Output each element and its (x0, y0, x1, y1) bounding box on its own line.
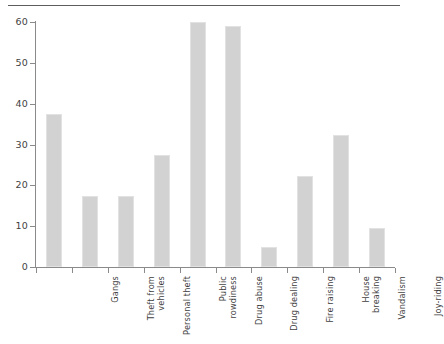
y-axis-tick (30, 185, 36, 186)
x-axis-tick (359, 268, 360, 273)
bar (154, 155, 170, 267)
x-axis-tick-label: House breaking (362, 276, 381, 338)
bar (297, 176, 313, 267)
x-axis-tick (108, 268, 109, 273)
y-axis-tick-label: 10 (0, 221, 28, 231)
bar (118, 196, 134, 267)
y-axis-tick (30, 104, 36, 105)
x-axis-tick-label: Gangs (111, 276, 121, 338)
y-axis-tick-label-text: 40 (4, 99, 28, 109)
x-axis-tick-label: Joy-riding (434, 276, 444, 338)
x-axis-tick (216, 268, 217, 273)
y-axis-tick-label-text: 20 (4, 180, 28, 190)
bar (190, 22, 206, 267)
y-axis-tick-label: 60 (0, 17, 28, 27)
x-axis-tick-label: Theft from vehicles (147, 276, 166, 338)
y-axis-tick-label: 40 (0, 99, 28, 109)
x-axis-tick (287, 268, 288, 273)
x-axis-tick (323, 268, 324, 273)
x-axis-tick (144, 268, 145, 273)
x-axis-tick-label: Fire raising (326, 276, 336, 338)
x-axis-tick (36, 268, 37, 273)
bar (225, 26, 241, 267)
y-axis-tick (30, 145, 36, 146)
y-axis-tick-label: 0 (0, 262, 28, 272)
x-axis-tick (395, 268, 396, 273)
y-axis-tick-label-text: 10 (4, 221, 28, 231)
y-axis-tick-label-text: 60 (4, 17, 28, 27)
x-axis-tick-label: Vandalism (398, 276, 408, 338)
y-axis-tick (30, 63, 36, 64)
x-axis-tick-label: Public rowdiness (219, 276, 238, 338)
x-axis-tick (72, 268, 73, 273)
bar (333, 135, 349, 267)
bar (82, 196, 98, 267)
y-axis-tick-label: 50 (0, 58, 28, 68)
y-axis-tick (30, 226, 36, 227)
y-axis-tick-label-text: 30 (4, 140, 28, 150)
x-axis-tick (180, 268, 181, 273)
header-divider (8, 5, 400, 6)
y-axis-tick-label: 20 (0, 180, 28, 190)
y-axis-tick-label: 30 (0, 140, 28, 150)
x-axis-tick-label: Drug dealing (290, 276, 300, 338)
x-axis-tick-label: Drug abuse (255, 276, 265, 338)
y-axis-tick (30, 22, 36, 23)
y-axis-tick-label-text: 50 (4, 58, 28, 68)
bar (369, 228, 385, 267)
bar (261, 247, 277, 267)
y-axis-tick-label-text: 0 (4, 262, 28, 272)
bar (46, 114, 62, 267)
x-axis-tick-label: Personal theft (183, 276, 193, 338)
x-axis-tick (251, 268, 252, 273)
